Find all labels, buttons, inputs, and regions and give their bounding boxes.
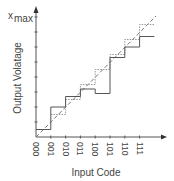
- y-axis-title: Output Volatage: [12, 42, 23, 114]
- x-tick-label: 111: [135, 142, 145, 155]
- y-max-label: xmax: [8, 10, 33, 24]
- x-tick-labels: 000001010011100101110111: [31, 142, 145, 156]
- x-tick-label: 100: [90, 142, 100, 156]
- x-axis-arrow-icon: [161, 135, 167, 140]
- y-axis-arrow-icon: [34, 6, 39, 13]
- x-tick-label: 101: [105, 142, 115, 156]
- x-tick-label: 000: [31, 142, 41, 156]
- x-tick-label: 110: [120, 142, 130, 156]
- dac-transfer-chart: xmax Output Volatage 0000010100111001011…: [0, 0, 174, 181]
- x-axis-title: Input Code: [72, 167, 121, 178]
- x-tick-label: 011: [75, 142, 85, 156]
- ideal-diagonal-line: [36, 16, 156, 137]
- x-tick-label: 010: [61, 142, 71, 156]
- x-tick-label: 001: [46, 142, 56, 156]
